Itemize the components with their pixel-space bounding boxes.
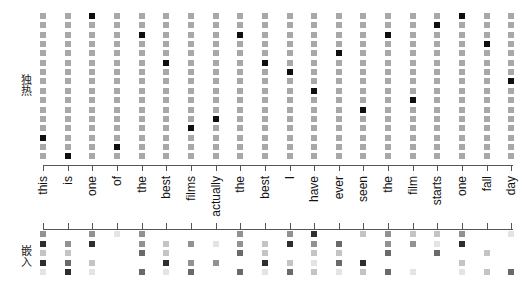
- onehot-cell: [484, 116, 490, 122]
- embedding-cell: [65, 250, 71, 256]
- onehot-cell: [237, 88, 243, 94]
- word-label: have: [307, 176, 321, 202]
- embedding-cell: [360, 269, 366, 275]
- axis-tick: [216, 223, 217, 229]
- onehot-cell: [188, 41, 194, 47]
- onehot-cell: [89, 153, 95, 159]
- onehot-cell: [188, 97, 194, 103]
- onehot-cell: [237, 97, 243, 103]
- onehot-active-cell: [434, 22, 440, 28]
- onehot-cell: [262, 107, 268, 113]
- word-label: the: [233, 176, 247, 193]
- onehot-cell: [89, 97, 95, 103]
- onehot-cell: [508, 32, 514, 38]
- embedding-cell: [89, 269, 95, 275]
- embedding-cell: [410, 241, 416, 247]
- onehot-cell: [434, 125, 440, 131]
- onehot-active-cell: [360, 107, 366, 113]
- onehot-cell: [336, 60, 342, 66]
- onehot-vs-embedding-diagram: 独热 嵌入 thisisoneofthebestfilmsactuallythe…: [0, 0, 530, 288]
- onehot-active-cell: [385, 32, 391, 38]
- onehot-cell: [237, 13, 243, 19]
- embedding-cell: [262, 260, 268, 266]
- onehot-cell: [163, 50, 169, 56]
- onehot-cell: [163, 116, 169, 122]
- onehot-cell: [484, 153, 490, 159]
- onehot-cell: [139, 60, 145, 66]
- onehot-cell: [287, 78, 293, 84]
- embedding-cell: [434, 250, 440, 256]
- onehot-cell: [360, 144, 366, 150]
- onehot-cell: [434, 60, 440, 66]
- onehot-cell: [163, 41, 169, 47]
- axis-tick: [462, 165, 463, 171]
- onehot-cell: [360, 60, 366, 66]
- onehot-cell: [262, 88, 268, 94]
- onehot-cell: [163, 144, 169, 150]
- embedding-cell: [114, 231, 120, 237]
- embedding-cell: [188, 260, 194, 266]
- onehot-cell: [287, 13, 293, 19]
- onehot-cell: [114, 125, 120, 131]
- onehot-cell: [336, 125, 342, 131]
- onehot-cell: [262, 50, 268, 56]
- onehot-cell: [163, 153, 169, 159]
- embedding-cell: [139, 241, 145, 247]
- onehot-cell: [311, 144, 317, 150]
- axis-tick: [166, 223, 167, 229]
- onehot-active-cell: [262, 60, 268, 66]
- onehot-cell: [311, 41, 317, 47]
- onehot-cell: [139, 13, 145, 19]
- onehot-cell: [237, 69, 243, 75]
- onehot-cell: [65, 135, 71, 141]
- onehot-active-cell: [287, 69, 293, 75]
- axis-tick: [290, 223, 291, 229]
- word-label: I: [283, 176, 297, 179]
- onehot-active-cell: [65, 153, 71, 159]
- onehot-cell: [385, 88, 391, 94]
- onehot-cell: [114, 22, 120, 28]
- onehot-cell: [434, 50, 440, 56]
- word-label: starts: [430, 176, 444, 205]
- onehot-cell: [360, 97, 366, 103]
- word-label: one: [85, 176, 99, 196]
- onehot-cell: [385, 97, 391, 103]
- onehot-cell: [65, 32, 71, 38]
- onehot-cell: [385, 69, 391, 75]
- onehot-cell: [262, 41, 268, 47]
- onehot-cell: [311, 69, 317, 75]
- onehot-cell: [508, 60, 514, 66]
- onehot-cell: [262, 144, 268, 150]
- onehot-cell: [459, 97, 465, 103]
- onehot-cell: [385, 50, 391, 56]
- onehot-cell: [385, 125, 391, 131]
- onehot-cell: [65, 69, 71, 75]
- axis-tick: [487, 165, 488, 171]
- embedding-cell: [89, 231, 95, 237]
- onehot-cell: [65, 50, 71, 56]
- embedding-cell: [40, 260, 46, 266]
- onehot-cell: [237, 50, 243, 56]
- onehot-cell: [40, 107, 46, 113]
- embedding-cell: [410, 231, 416, 237]
- embedding-cell: [459, 231, 465, 237]
- onehot-cell: [434, 153, 440, 159]
- onehot-cell: [139, 88, 145, 94]
- onehot-cell: [508, 41, 514, 47]
- embedding-cell: [336, 250, 342, 256]
- onehot-cell: [508, 88, 514, 94]
- onehot-cell: [40, 60, 46, 66]
- embedding-cell: [360, 260, 366, 266]
- word-label: best: [159, 176, 173, 199]
- onehot-cell: [213, 144, 219, 150]
- onehot-cell: [360, 22, 366, 28]
- onehot-cell: [188, 135, 194, 141]
- onehot-cell: [434, 116, 440, 122]
- onehot-cell: [311, 22, 317, 28]
- onehot-cell: [410, 107, 416, 113]
- onehot-cell: [139, 135, 145, 141]
- embedding-cell: [65, 241, 71, 247]
- axis-tick: [240, 165, 241, 171]
- onehot-active-cell: [114, 144, 120, 150]
- axis-tick: [43, 165, 44, 171]
